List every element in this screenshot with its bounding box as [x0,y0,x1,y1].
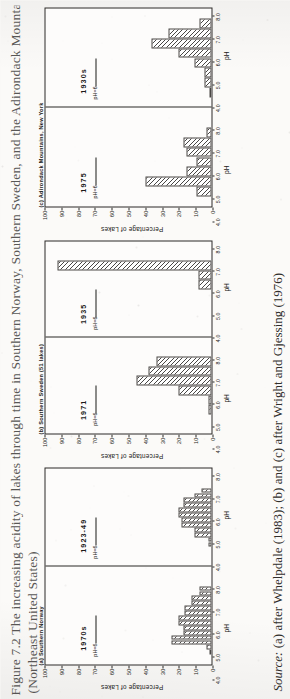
figure-panels: (a) Southern Norway (187 lakes) 01020304… [28,0,260,699]
panel-a-x-axis: 4.05.06.07.08.0pH4.05.06.07.08.0pH [212,465,238,691]
scan-speckle [128,314,129,315]
scan-speckle [70,435,72,437]
scan-speckle [168,117,169,118]
panel-b-southern-sweden: (b) Southern Sweden (51 lakes) 010203040… [28,238,260,460]
scan-speckle [254,170,255,171]
x-axis-tick-label: 8.0 [214,127,220,135]
histogram-bar [178,507,211,512]
x-axis-tick-label: 6.0 [214,631,220,639]
histogram-bar [183,502,211,507]
scan-speckle [1,352,2,353]
scan-speckle [11,198,12,199]
scan-speckle [77,159,79,161]
y-axis-tick-label: 70 [91,437,97,443]
scan-speckle [15,680,17,682]
histogram-bar [199,586,211,591]
panel-a-y-axis-label: Percentage of Lakes [57,683,207,690]
scan-speckle [50,386,51,387]
ph6-threshold-label: pH=6 [91,86,97,99]
x-axis-tick-label: 8.0 [214,356,220,364]
scan-speckle [264,386,265,387]
scan-speckle [124,629,126,631]
scan-speckle [197,163,198,164]
scan-speckle [240,328,242,330]
scan-speckle [111,58,112,59]
scan-speckle [241,147,242,148]
scan-speckle [179,468,180,469]
histogram-bar [178,620,211,625]
histogram-bar [198,270,211,280]
x-axis-tick-label: 5.0 [214,540,220,548]
scan-speckle [152,639,153,640]
scan-speckle [163,25,164,26]
x-axis-tick-label: 4.0 [214,563,220,571]
panel-b-plot-frame: 1971 pH=6 1935 pH=6 [44,240,212,434]
panel-b-x-axis: 4.05.06.07.08.0pH4.05.06.07.08.0pH [212,238,238,460]
histogram-bar [199,591,211,596]
scan-speckle [137,304,139,306]
x-axis-tick-label: 4.0 [214,334,220,342]
scan-speckle [172,577,173,578]
histogram-bar [181,517,211,522]
y-axis-tick-label: 10 [192,437,198,443]
ph6-threshold-label: pH=6 [91,412,97,425]
histogram-bar [209,87,211,97]
scan-speckle [55,539,56,540]
y-axis-tick-label: 50 [125,437,131,443]
histogram-bar [198,279,211,289]
scan-speckle [64,584,65,585]
x-axis-label: pH [222,511,229,519]
scan-speckle [280,495,281,496]
scan-speckle [101,42,102,43]
histogram-bar [196,186,211,196]
scan-speckle [154,161,155,162]
scan-speckle [111,16,112,17]
y-axis-tick-label: 40 [142,210,148,216]
histogram-bar [57,260,211,270]
scan-speckle [135,246,137,248]
scan-speckle [208,294,210,296]
x-axis-label: pH [222,51,229,59]
y-axis-tick-label: 100 [41,437,47,447]
histogram-bar [201,488,211,493]
x-axis-tick-label: 6.0 [214,518,220,526]
y-axis-tick-label: 80 [75,437,81,443]
scan-speckle [236,373,238,375]
ph6-threshold-line [95,517,96,545]
ph6-threshold-label: pH=6 [91,545,97,558]
scan-speckle [1,165,3,167]
ph6-threshold-line [95,385,96,413]
histogram-bar [183,497,211,502]
histogram-bar [206,644,211,649]
histogram-bar [194,527,211,532]
scan-speckle [53,412,54,413]
x-axis-tick-label: 7.0 [214,35,220,43]
y-axis-tick-label: 90 [58,668,64,674]
histogram-bar [171,635,211,640]
panel-c-y-axis-label: Percentage of Lakes [57,225,207,232]
panel-a-plot-frame: 1970s pH=6 1923-49 pH=6 [44,467,212,665]
histogram-bar [208,404,211,414]
figure-caption-line-1: Figure 7.2 The increasing acidity of lak… [6,5,23,695]
scan-speckle [142,236,143,237]
ph6-threshold-line [95,157,96,186]
histogram-bar [184,605,211,610]
scan-speckle [70,529,71,530]
scan-speckle [121,68,122,69]
source-note: Source: (a) after Whelpdale (1983); (b) … [269,11,285,691]
x-axis-tick-label: 8.0 [214,585,220,593]
ph6-threshold-label: pH=6 [91,185,97,198]
ph6-threshold-label: pH=6 [91,316,97,329]
y-axis-tick-label: 10 [192,668,198,674]
scan-speckle [180,443,181,444]
y-axis-tick-label: 60 [108,668,114,674]
scan-speckle [142,697,143,698]
scan-speckle [49,685,50,686]
histogram-bar [204,77,211,87]
y-axis-tick-label: 30 [159,210,165,216]
scan-speckle [7,40,8,41]
panel-c-subplot-1975: 1975 pH=6 [45,107,211,206]
x-axis-tick-label: 5.0 [214,423,220,431]
y-axis-tick-label: 100 [41,668,47,678]
histogram-bar [136,375,211,385]
